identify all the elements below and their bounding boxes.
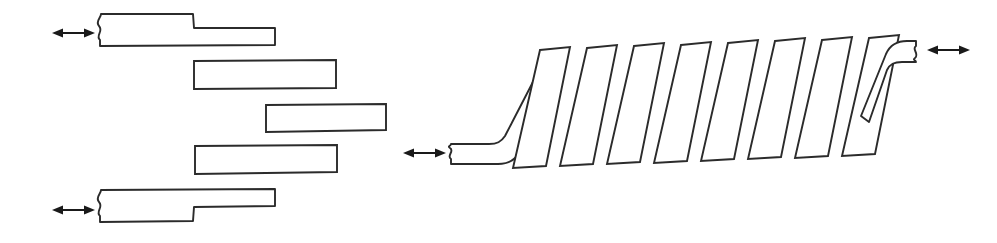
technical-diagram-canvas xyxy=(0,0,997,243)
plain-bar-second xyxy=(194,60,336,89)
diagram-svg xyxy=(0,0,997,243)
plain-bar-third xyxy=(266,104,386,132)
plain-bar-fourth xyxy=(195,145,337,174)
